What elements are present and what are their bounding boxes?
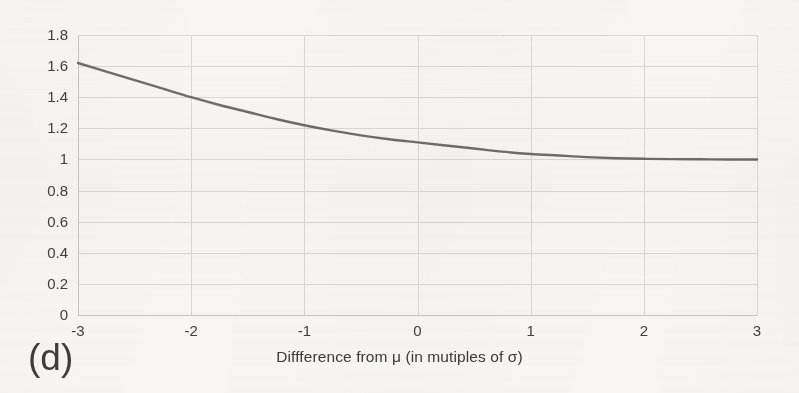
- figure-panel: 1.81.61.41.210.80.60.40.20 -3-2-10123 Di…: [0, 0, 799, 393]
- y-tick-label: 1.4: [22, 89, 68, 104]
- series-line-0: [78, 63, 757, 159]
- x-tick-label: 0: [398, 323, 438, 338]
- x-axis-title: Diffference from μ (in mutiples of σ): [0, 348, 799, 366]
- horizontal-gridlines: [78, 36, 757, 316]
- y-tick-label: 1.6: [22, 58, 68, 73]
- subfigure-label: (d): [28, 339, 73, 376]
- y-tick-label: 0.6: [22, 214, 68, 229]
- x-tick-label: 1: [511, 323, 551, 338]
- y-tick-label: 0.4: [22, 245, 68, 260]
- plot-area-border: [78, 35, 758, 316]
- y-tick-label: 0: [22, 307, 68, 322]
- data-series-lines: [78, 63, 757, 159]
- y-tick-label: 0.8: [22, 183, 68, 198]
- x-tick-label: 2: [624, 323, 664, 338]
- y-tick-label: 1: [22, 151, 68, 166]
- x-tick-label: -2: [171, 323, 211, 338]
- x-tick-label: -1: [284, 323, 324, 338]
- y-tick-label: 0.2: [22, 276, 68, 291]
- y-tick-label: 1.2: [22, 120, 68, 135]
- y-tick-label: 1.8: [22, 27, 68, 42]
- x-tick-label: 3: [737, 323, 777, 338]
- vertical-gridlines: [79, 35, 758, 315]
- x-tick-label: -3: [58, 323, 98, 338]
